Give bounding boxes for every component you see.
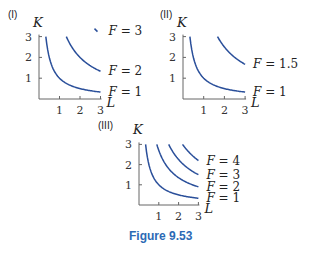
x-tick-label: 2 — [221, 104, 228, 117]
x-tick-label: 2 — [175, 210, 182, 223]
y-tick-label: 1 — [169, 72, 176, 85]
curve-label: F = 1 — [252, 85, 287, 99]
x-tick-label: 1 — [200, 104, 207, 117]
isoquant-curve — [66, 37, 100, 72]
curve-label: F = 1.5 — [252, 57, 298, 71]
x-tick-label: 1 — [56, 104, 63, 117]
figure-caption: Figure 9.53 — [129, 229, 193, 243]
isoquant-curve — [46, 37, 101, 92]
y-tick-label: 3 — [25, 31, 32, 44]
curve-label: F = 2 — [108, 64, 143, 78]
panel-label: (I) — [8, 9, 17, 20]
y-tick-label: 1 — [25, 72, 32, 85]
panel-label: (III) — [98, 120, 113, 131]
isoquant-curve — [157, 144, 199, 186]
chart-panel-1: (I)KL123123F = 1F = 2F = 3 — [8, 9, 142, 117]
figure: (I)KL123123F = 1F = 2F = 3(II)KL123123F … — [0, 0, 310, 253]
y-tick-label: 1 — [125, 179, 132, 192]
isoquant-curve — [169, 144, 199, 174]
chart-panel-3: (III)KL123123F = 1F = 2F = 3F = 4 — [98, 120, 240, 223]
y-axis-label: K — [176, 15, 188, 30]
y-tick-label: 2 — [169, 51, 176, 64]
y-tick-label: 2 — [25, 51, 32, 64]
isoquant-curve — [218, 37, 246, 65]
curve-label: F = 1 — [108, 85, 143, 99]
panel-label: (II) — [160, 9, 172, 20]
y-tick-label: 3 — [169, 31, 176, 44]
curve-label: F = 2 — [205, 180, 240, 194]
chart-panel-2: (II)KL123123F = 1F = 1.5 — [160, 9, 298, 117]
curve-label: F = 3 — [108, 24, 143, 38]
curve-label: F = 3 — [205, 168, 240, 182]
x-tick-label: 3 — [97, 104, 104, 117]
isoquant-curve — [190, 37, 245, 92]
y-axis-label: K — [132, 122, 144, 137]
curve-label: F = 4 — [205, 154, 240, 168]
x-tick-label: 3 — [195, 210, 202, 223]
y-tick-label: 3 — [125, 138, 132, 151]
isoquant-curve — [183, 144, 199, 160]
x-tick-label: 1 — [155, 210, 162, 223]
isoquant-curve — [95, 29, 98, 32]
y-axis-label: K — [32, 15, 44, 30]
x-tick-label: 2 — [77, 104, 84, 117]
x-tick-label: 3 — [242, 104, 249, 117]
y-tick-label: 2 — [125, 159, 132, 172]
